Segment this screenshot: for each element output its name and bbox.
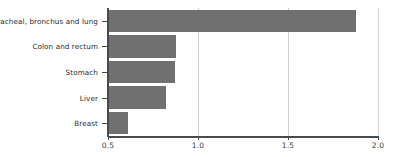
bar[interactable] [108, 86, 166, 109]
bar[interactable] [108, 10, 356, 33]
bar-row [108, 34, 378, 60]
category-label: Breast [74, 119, 98, 128]
y-tick-mark [102, 98, 107, 99]
y-tick-mark [102, 123, 107, 124]
x-tick-label: 1.5 [282, 141, 295, 150]
bar-row [108, 85, 378, 111]
x-tick-mark [378, 136, 379, 140]
plot-area [108, 8, 378, 136]
y-tick-mark [102, 72, 107, 73]
x-tick-mark [198, 136, 199, 140]
x-axis-spine [108, 136, 379, 138]
category-label: Liver [80, 93, 98, 102]
x-tick-mark [108, 136, 109, 140]
bar-chart-figure: 0.51.01.52.0 Tracheal, bronchus and lung… [0, 0, 395, 157]
x-tick-mark [288, 136, 289, 140]
x-tick-label: 0.5 [102, 141, 115, 150]
category-label: Stomach [66, 68, 98, 77]
y-axis-spine [107, 8, 109, 137]
category-label: Colon and rectum [32, 42, 98, 51]
bar[interactable] [108, 35, 176, 58]
bar-row [108, 110, 378, 136]
bar-row [108, 8, 378, 34]
bar[interactable] [108, 61, 175, 84]
bar[interactable] [108, 112, 128, 135]
gridline [378, 8, 379, 136]
x-tick-label: 1.0 [192, 141, 205, 150]
y-tick-mark [102, 21, 107, 22]
bar-row [108, 59, 378, 85]
y-tick-mark [102, 46, 107, 47]
category-label: Tracheal, bronchus and lung [0, 16, 98, 25]
x-tick-label: 2.0 [372, 141, 385, 150]
